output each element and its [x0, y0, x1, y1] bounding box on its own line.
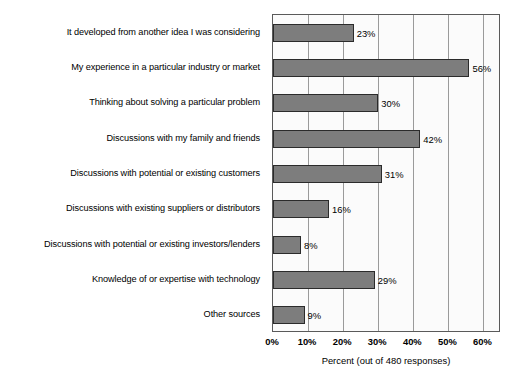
bar-value-label: 16% — [329, 204, 351, 215]
bar-value-label: 56% — [469, 63, 491, 74]
bar-row: 16% — [273, 200, 501, 218]
bar-value-label: 8% — [301, 239, 318, 250]
category-label: Other sources — [204, 309, 260, 320]
category-axis-labels: It developed from another idea I was con… — [0, 14, 266, 332]
bar-value-label: 23% — [354, 27, 376, 38]
category-label: Discussions with potential or existing i… — [44, 238, 260, 249]
x-tick-label: 40% — [403, 336, 422, 347]
category-label: Discussions with potential or existing c… — [70, 168, 260, 179]
category-label: Discussions with existing suppliers or d… — [66, 203, 260, 214]
bar-row: 42% — [273, 130, 501, 148]
category-label: It developed from another idea I was con… — [67, 26, 260, 37]
bar — [273, 130, 420, 148]
bar-row: 30% — [273, 94, 501, 112]
bar-row: 8% — [273, 236, 501, 254]
bar — [273, 306, 305, 324]
bar-value-label: 42% — [420, 133, 442, 144]
x-tick-label: 0% — [265, 336, 279, 347]
x-tick-label: 50% — [438, 336, 457, 347]
bar — [273, 236, 301, 254]
x-tick-label: 10% — [298, 336, 317, 347]
category-label: My experience in a particular industry o… — [71, 62, 260, 73]
bar — [273, 271, 375, 289]
plot-area: 23%56%30%42%31%16%8%29%9% — [272, 14, 500, 332]
category-label: Knowledge of or expertise with technolog… — [92, 274, 260, 285]
bar — [273, 24, 354, 42]
bar-value-label: 9% — [305, 310, 322, 321]
x-axis-title: Percent (out of 480 responses) — [272, 355, 500, 366]
bar-row: 29% — [273, 271, 501, 289]
bar-chart-figure: It developed from another idea I was con… — [0, 0, 526, 382]
category-label: Thinking about solving a particular prob… — [89, 97, 260, 108]
category-label: Discussions with my family and friends — [107, 132, 260, 143]
bar — [273, 200, 329, 218]
bar-value-label: 31% — [382, 169, 404, 180]
x-tick-label: 60% — [473, 336, 492, 347]
bar-row: 31% — [273, 165, 501, 183]
bar-row: 9% — [273, 306, 501, 324]
bar — [273, 94, 378, 112]
x-tick-label: 30% — [368, 336, 387, 347]
bar-value-label: 29% — [375, 275, 397, 286]
bar — [273, 59, 469, 77]
x-tick-label: 20% — [333, 336, 352, 347]
bar-row: 23% — [273, 24, 501, 42]
bar-value-label: 30% — [378, 98, 400, 109]
bar-row: 56% — [273, 59, 501, 77]
bar — [273, 165, 382, 183]
x-axis-tick-labels: 0%10%20%30%40%50%60% — [272, 336, 500, 350]
